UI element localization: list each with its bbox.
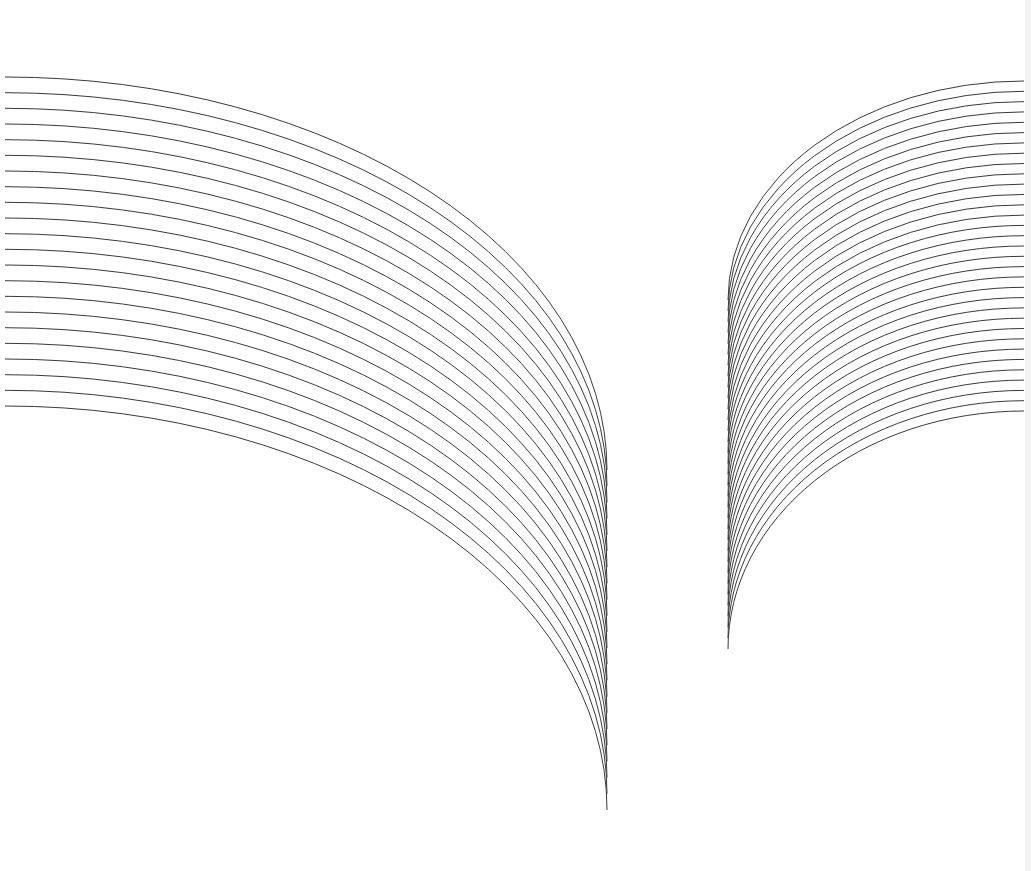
curve-line: [5, 296, 607, 696]
curve-line: [5, 390, 607, 794]
line-art-canvas: [0, 0, 1031, 871]
curve-line: [728, 91, 1024, 311]
curve-line: [728, 380, 1024, 616]
curve-line: [5, 93, 607, 487]
curve-line: [728, 401, 1024, 638]
curve-line: [5, 202, 607, 599]
curve-line: [728, 318, 1024, 551]
curve-line: [5, 375, 607, 778]
curve-line: [5, 218, 607, 616]
left-curve-fan: [5, 77, 607, 810]
curve-line: [728, 411, 1024, 649]
curve-line: [5, 265, 607, 664]
curve-line: [5, 328, 607, 729]
curve-line: [5, 187, 607, 584]
curve-line: [5, 140, 607, 535]
curve-line: [5, 281, 607, 681]
curve-line: [728, 390, 1024, 627]
curve-line: [728, 349, 1024, 583]
curve-line: [5, 171, 607, 567]
curve-line: [728, 329, 1024, 562]
curve-line: [5, 155, 607, 551]
curve-line: [5, 359, 607, 761]
curve-line: [728, 339, 1024, 573]
curve-line: [5, 108, 607, 502]
curve-line: [5, 406, 607, 810]
curve-line: [5, 77, 607, 470]
curve-line: [5, 234, 607, 632]
scrollbar-track[interactable]: [1025, 0, 1031, 871]
curve-line: [728, 359, 1024, 594]
curve-line: [5, 312, 607, 713]
curve-line: [5, 343, 607, 745]
curve-line: [728, 370, 1024, 606]
curve-line: [728, 81, 1024, 300]
curve-line: [5, 249, 607, 648]
right-curve-fan: [728, 81, 1024, 649]
curve-line: [5, 124, 607, 519]
